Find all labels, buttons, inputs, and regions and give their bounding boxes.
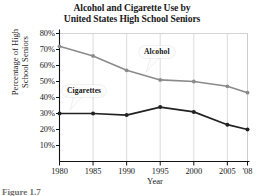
series-callout-alcohol: Alcohol — [139, 46, 175, 58]
x-tick-label-1995: 1995 — [143, 167, 177, 176]
y-tick-label-60: 60% — [26, 61, 55, 70]
y-tick-label-20: 20% — [26, 125, 55, 134]
data-point-cigarettes-08 — [246, 128, 250, 132]
y-tick-label-50: 50% — [26, 77, 55, 86]
data-point-alcohol-08 — [246, 91, 250, 95]
y-tick-label-10: 10% — [26, 141, 55, 150]
data-point-cigarettes-1995 — [158, 105, 162, 109]
data-point-alcohol-1990 — [125, 68, 129, 72]
y-tick-label-30: 30% — [26, 109, 55, 118]
data-point-alcohol-2000 — [192, 80, 196, 84]
series-line-cigarettes — [60, 107, 248, 129]
callout-tail-cigarettes — [70, 95, 84, 110]
x-axis-label: Year — [55, 176, 255, 186]
data-point-alcohol-1995 — [158, 78, 162, 82]
x-tick-label-1985: 1985 — [76, 167, 110, 176]
data-point-cigarettes-1985 — [91, 112, 95, 116]
callout-tail-alcohol — [146, 57, 160, 72]
x-tick-label-08: '08 — [231, 167, 258, 176]
y-tick-label-40: 40% — [26, 93, 55, 102]
figure-container: Alcohol and Cigarette Use by United Stat… — [0, 0, 257, 196]
data-point-cigarettes-2005 — [225, 123, 229, 127]
x-tick-label-1980: 1980 — [43, 167, 77, 176]
data-point-alcohol-1980 — [58, 44, 62, 48]
plot-area: 80%70%60%50%40%30%20%10%1980198519901995… — [0, 0, 257, 196]
y-tick-label-80: 80% — [26, 29, 55, 38]
data-point-cigarettes-1980 — [58, 112, 62, 116]
data-point-alcohol-1985 — [91, 54, 95, 58]
data-point-cigarettes-2000 — [192, 110, 196, 114]
x-tick-label-2000: 2000 — [177, 167, 211, 176]
figure-caption: Figure 1.7 — [2, 187, 41, 196]
series-callout-cigarettes: Cigarettes — [62, 85, 106, 97]
data-point-alcohol-2005 — [225, 84, 229, 88]
data-point-cigarettes-1990 — [125, 113, 129, 117]
x-tick-label-1990: 1990 — [110, 167, 144, 176]
y-tick-label-70: 70% — [26, 45, 55, 54]
